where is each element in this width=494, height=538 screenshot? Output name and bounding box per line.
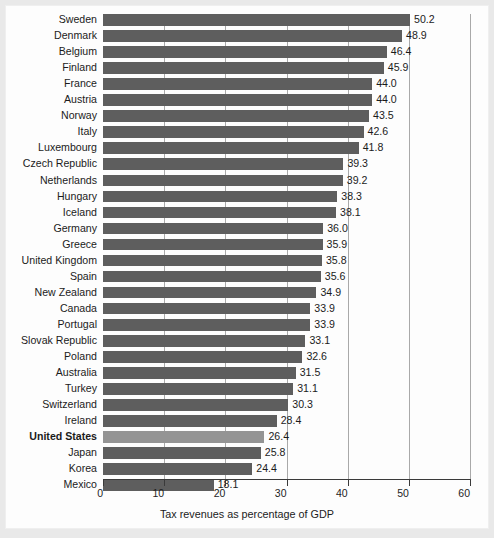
bar — [103, 271, 321, 283]
bar-value-label: 35.6 — [325, 271, 346, 283]
bar-row: Switzerland30.3 — [103, 399, 470, 415]
bar-value-label: 44.0 — [376, 94, 397, 106]
bar-row: Czech Republic39.3 — [103, 158, 470, 174]
bar-value-label: 46.4 — [391, 46, 412, 58]
bar-row: Sweden50.2 — [103, 14, 470, 30]
bar-row: Australia31.5 — [103, 367, 470, 383]
plot-area: Sweden50.2Denmark48.9Belgium46.4Finland4… — [103, 14, 470, 479]
bar-value-label: 50.2 — [414, 14, 435, 26]
bar-value-label: 25.8 — [265, 447, 286, 459]
bar — [103, 175, 343, 187]
bar-row: Ireland28.4 — [103, 415, 470, 431]
x-tick-label-20: 20 — [195, 487, 228, 500]
bar-value-label: 31.1 — [297, 383, 318, 395]
category-label: Ireland — [65, 415, 97, 427]
bar-value-label: 38.3 — [341, 191, 362, 203]
category-label: Germany — [53, 223, 97, 235]
x-tick-mark-30 — [287, 479, 288, 486]
bar — [103, 223, 323, 235]
category-label: Australia — [56, 367, 97, 379]
bar-row: Belgium46.4 — [103, 46, 470, 62]
bar-row: Slovak Republic33.1 — [103, 335, 470, 351]
bar-value-label: 28.4 — [281, 415, 302, 427]
bar — [103, 158, 343, 170]
x-tick-mark-40 — [348, 479, 349, 486]
category-label: Turkey — [65, 383, 97, 395]
category-label: Switzerland — [42, 399, 97, 411]
bar — [103, 399, 288, 411]
bar-row: Greece35.9 — [103, 239, 470, 255]
bar-row: Netherlands39.2 — [103, 175, 470, 191]
bar-value-label: 34.9 — [320, 287, 341, 299]
bar-row: Turkey31.1 — [103, 383, 470, 399]
category-label: Spain — [70, 271, 97, 283]
x-tick-mark-20 — [225, 479, 226, 486]
category-label: Sweden — [59, 14, 97, 26]
bar — [103, 287, 316, 299]
category-label: Belgium — [59, 46, 97, 58]
category-label: Iceland — [63, 207, 97, 219]
category-label: Netherlands — [40, 175, 97, 187]
category-label: Denmark — [54, 30, 97, 42]
bar-value-label: 33.1 — [309, 335, 330, 347]
bar-row: France44.0 — [103, 78, 470, 94]
bar — [103, 46, 387, 58]
category-label: Japan — [68, 447, 97, 459]
x-axis-title: Tax revenues as percentage of GDP — [6, 508, 488, 520]
x-tick-label-40: 40 — [318, 487, 351, 500]
bar-value-label: 33.9 — [314, 303, 335, 315]
bar — [103, 335, 305, 347]
bar — [103, 30, 402, 42]
bar-value-label: 32.6 — [306, 351, 327, 363]
bar — [103, 415, 277, 427]
bar-row: Portugal33.9 — [103, 319, 470, 335]
bar-row: Iceland38.1 — [103, 207, 470, 223]
category-label: Luxembourg — [38, 142, 97, 154]
bar — [103, 255, 322, 267]
category-label: Finland — [62, 62, 97, 74]
bar-value-label: 38.1 — [340, 207, 361, 219]
bar-row: Poland32.6 — [103, 351, 470, 367]
x-tick-label-30: 30 — [257, 487, 290, 500]
bar — [103, 142, 359, 154]
chart-figure-panel: Sweden50.2Denmark48.9Belgium46.4Finland4… — [6, 6, 488, 528]
category-label: Norway — [61, 110, 97, 122]
bar-value-label: 30.3 — [292, 399, 313, 411]
bar-value-label: 44.0 — [376, 78, 397, 90]
bar-row: Italy42.6 — [103, 126, 470, 142]
bar-value-label: 42.6 — [368, 126, 389, 138]
bar — [103, 239, 323, 251]
bar — [103, 319, 310, 331]
bar-value-label: 24.4 — [256, 463, 277, 475]
x-tick-label-60: 60 — [440, 487, 473, 500]
bar-row: Korea24.4 — [103, 463, 470, 479]
bar-row: Canada33.9 — [103, 303, 470, 319]
bar — [103, 367, 296, 379]
bar-row: Norway43.5 — [103, 110, 470, 126]
x-tick-mark-10 — [164, 479, 165, 486]
bar — [103, 110, 369, 122]
bar-value-label: 43.5 — [373, 110, 394, 122]
x-tick-label-0: 0 — [73, 487, 106, 500]
bar-row: Finland45.9 — [103, 62, 470, 78]
x-tick-mark-60 — [470, 479, 471, 486]
bar — [103, 94, 372, 106]
bar-value-label: 45.9 — [388, 62, 409, 74]
category-label: Czech Republic — [23, 158, 97, 170]
category-label: Korea — [69, 463, 97, 475]
bar — [103, 447, 261, 459]
bar — [103, 62, 384, 74]
category-label: Poland — [64, 351, 97, 363]
bar-row: Denmark48.9 — [103, 30, 470, 46]
x-tick-mark-50 — [409, 479, 410, 486]
bar — [103, 463, 252, 475]
category-label: Canada — [60, 303, 97, 315]
bar — [103, 126, 364, 138]
category-label: New Zealand — [35, 287, 97, 299]
bar-value-label: 31.5 — [300, 367, 321, 379]
x-tick-mark-0 — [103, 479, 104, 486]
category-label: Slovak Republic — [21, 335, 97, 347]
bar-value-label: 35.9 — [327, 239, 348, 251]
bar-row: Austria44.0 — [103, 94, 470, 110]
category-label: United States — [29, 431, 97, 443]
